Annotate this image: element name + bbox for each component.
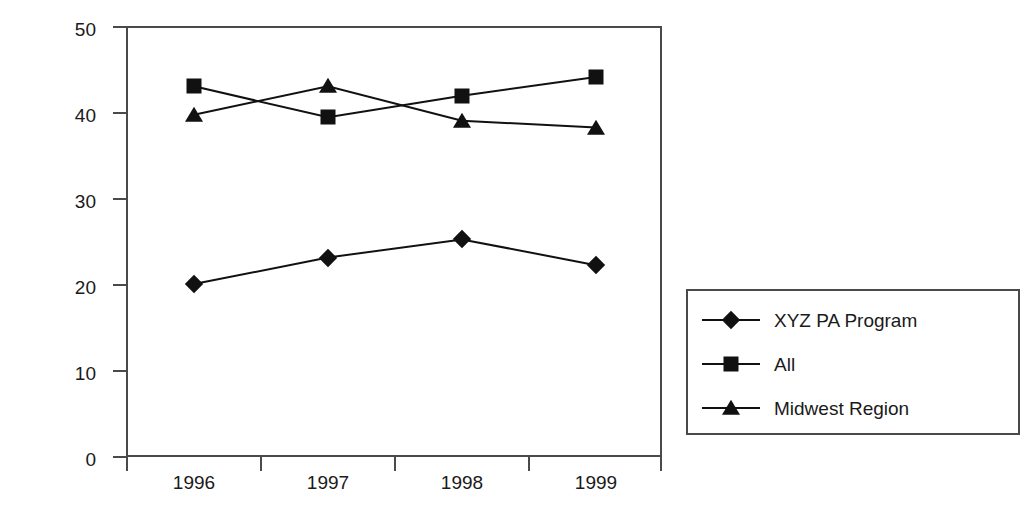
triangle-marker-icon xyxy=(702,395,760,421)
y-axis-ticks xyxy=(113,27,127,457)
legend-label-all: All xyxy=(774,355,795,374)
legend-item-all: All xyxy=(702,349,1008,379)
series-line-xyz-pa-program xyxy=(194,239,596,284)
line-chart: Number of Students 50 40 30 20 10 0 1996… xyxy=(0,0,1024,518)
legend-item-xyz-pa-program: XYZ PA Program xyxy=(702,305,1008,335)
square-marker-icon xyxy=(702,351,760,377)
data-point-all-1997 xyxy=(321,110,336,125)
legend-label-xyz-pa-program: XYZ PA Program xyxy=(774,311,917,330)
data-point-midwest-1997 xyxy=(319,78,337,93)
legend-item-midwest-region: Midwest Region xyxy=(702,393,1008,423)
diamond-marker-icon xyxy=(702,307,760,333)
plot-area xyxy=(0,0,1024,518)
data-point-midwest-1998 xyxy=(453,113,471,128)
data-point-all-1999 xyxy=(589,70,604,85)
legend: XYZ PA Program All Midwest Region xyxy=(686,289,1020,435)
data-point-midwest-1999 xyxy=(587,120,605,135)
data-point-all-1996 xyxy=(187,79,202,94)
x-axis-ticks xyxy=(127,457,661,471)
legend-label-midwest-region: Midwest Region xyxy=(774,399,909,418)
plot-frame xyxy=(127,27,662,457)
data-point-all-1998 xyxy=(455,89,470,104)
series-line-all xyxy=(194,77,596,117)
data-point-midwest-1996 xyxy=(185,107,203,122)
